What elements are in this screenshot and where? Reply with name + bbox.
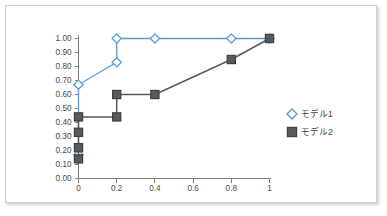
y-axis-tick-labels: 0.000.100.200.300.400.500.600.700.800.90… xyxy=(56,34,72,183)
y-axis-tick-label: 0.70 xyxy=(56,76,72,85)
x-axis-tick-label: 0 xyxy=(76,184,81,193)
series-line xyxy=(79,39,270,155)
data-point-marker[interactable] xyxy=(112,34,121,43)
series-2[interactable] xyxy=(74,34,273,163)
legend-diamond-icon xyxy=(287,109,297,119)
legend-label: モデル2 xyxy=(301,126,333,137)
y-axis-tick-label: 0.80 xyxy=(56,62,72,71)
data-point-marker[interactable] xyxy=(227,34,236,43)
data-point-marker[interactable] xyxy=(74,128,82,136)
y-axis-tick-label: 0.10 xyxy=(56,160,72,169)
y-axis-tick-label: 0.30 xyxy=(56,132,72,141)
y-axis-tick-label: 0.40 xyxy=(56,118,72,127)
chart-legend[interactable]: モデル1モデル2 xyxy=(287,108,333,137)
data-point-marker[interactable] xyxy=(74,155,82,163)
chart-series-group[interactable] xyxy=(74,34,274,163)
x-axis-tick-labels: 00.20.40.60.81 xyxy=(76,184,272,193)
data-point-marker[interactable] xyxy=(227,55,235,63)
data-point-marker[interactable] xyxy=(74,144,82,152)
x-axis-tick-label: 0.4 xyxy=(149,184,161,193)
data-point-marker[interactable] xyxy=(265,34,273,42)
x-axis-tick-label: 0.8 xyxy=(226,184,238,193)
series-line xyxy=(79,39,270,159)
chart-plot-area[interactable]: 0.000.100.200.300.400.500.600.700.800.90… xyxy=(6,6,378,202)
data-point-marker[interactable] xyxy=(150,34,159,43)
data-point-marker[interactable] xyxy=(74,113,82,121)
y-axis-tick-label: 0.20 xyxy=(56,146,72,155)
y-axis-tick-label: 0.50 xyxy=(56,104,72,113)
roc-chart-svg[interactable]: 0.000.100.200.300.400.500.600.700.800.90… xyxy=(6,6,378,202)
legend-label: モデル1 xyxy=(301,108,333,119)
x-axis-tick-label: 0.2 xyxy=(111,184,123,193)
legend-square-icon xyxy=(287,127,296,136)
x-axis-tick-label: 0.6 xyxy=(187,184,199,193)
chart-axes xyxy=(75,35,271,183)
y-axis-tick-label: 0.00 xyxy=(56,174,72,183)
data-point-marker[interactable] xyxy=(74,80,83,89)
legend-item-2[interactable]: モデル2 xyxy=(287,126,333,137)
y-axis-tick-label: 0.60 xyxy=(56,90,72,99)
data-point-marker[interactable] xyxy=(112,58,121,67)
data-point-marker[interactable] xyxy=(151,90,159,98)
data-point-marker[interactable] xyxy=(113,113,121,121)
y-axis-tick-label: 1.00 xyxy=(56,34,72,43)
chart-card: 0.000.100.200.300.400.500.600.700.800.90… xyxy=(5,5,377,203)
y-axis-tick-label: 0.90 xyxy=(56,48,72,57)
legend-item-1[interactable]: モデル1 xyxy=(287,108,333,119)
data-point-marker[interactable] xyxy=(113,90,121,98)
x-axis-tick-label: 1 xyxy=(267,184,272,193)
